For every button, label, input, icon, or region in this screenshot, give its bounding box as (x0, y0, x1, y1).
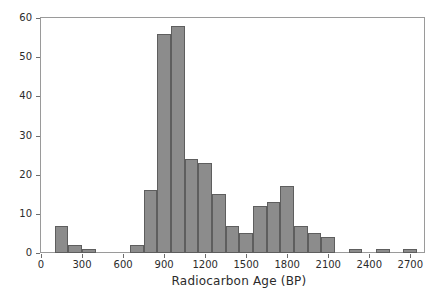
x-tick-label: 600 (103, 259, 143, 270)
x-tick-mark (246, 254, 247, 258)
x-tick-mark (410, 254, 411, 258)
x-tick-label: 1200 (185, 259, 225, 270)
x-tick-mark (123, 254, 124, 258)
x-axis-ticks: 0300600900120015001800210024002700 (0, 0, 433, 296)
x-tick-label: 2100 (308, 259, 348, 270)
x-tick-mark (164, 254, 165, 258)
x-tick-mark (205, 254, 206, 258)
x-tick-label: 1800 (267, 259, 307, 270)
x-tick-mark (287, 254, 288, 258)
x-tick-label: 2700 (390, 259, 430, 270)
x-tick-mark (41, 254, 42, 258)
x-tick-label: 1500 (226, 259, 266, 270)
x-tick-mark (82, 254, 83, 258)
x-tick-label: 0 (21, 259, 61, 270)
x-tick-mark (369, 254, 370, 258)
x-tick-label: 300 (62, 259, 102, 270)
x-tick-mark (328, 254, 329, 258)
histogram-chart: Frequency 0102030405060 0300600900120015… (0, 0, 433, 296)
x-tick-label: 2400 (349, 259, 389, 270)
x-axis-title: Radiocarbon Age (BP) (55, 274, 423, 288)
x-tick-label: 900 (144, 259, 184, 270)
